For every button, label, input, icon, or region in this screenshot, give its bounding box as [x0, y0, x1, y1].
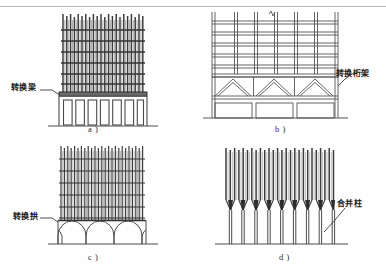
panel-d-label: 合并柱 — [337, 197, 362, 208]
panel-d-merged-columns — [226, 200, 335, 244]
panel-b-transfer-truss — [212, 77, 338, 99]
panel-c: 转换拱 c ) — [0, 140, 193, 268]
panel-a-label: 转换梁 — [11, 81, 36, 92]
panel-b-frame — [212, 12, 338, 118]
panel-c-caption: c ) — [88, 252, 98, 262]
panel-a-podium — [59, 96, 147, 126]
panel-a-tower — [61, 14, 145, 92]
panel-a-caption: a ) — [88, 124, 98, 134]
panel-b-label: 转换桁架 — [336, 67, 369, 78]
panel-c-leader-line — [40, 218, 58, 222]
panel-a-transfer-beam — [59, 92, 147, 96]
panel-c-label: 转换拱 — [13, 210, 38, 221]
panel-b: 转换桁架 b ) — [193, 8, 386, 140]
panel-c-drawing — [0, 140, 193, 268]
panel-d: 合并柱 d ) — [193, 140, 386, 268]
panel-a-drawing — [0, 8, 193, 140]
panel-d-caption: d ) — [279, 252, 290, 262]
figure-canvas: 转换梁 a ) — [0, 0, 386, 280]
panel-a: 转换梁 a ) — [0, 8, 193, 140]
panel-a-leader-line — [40, 90, 59, 95]
panel-c-transfer-arches — [58, 221, 146, 245]
top-rule — [0, 6, 386, 7]
panel-c-tower — [59, 146, 145, 220]
panel-b-caption: b ) — [275, 124, 286, 134]
panel-b-podium — [215, 103, 334, 118]
